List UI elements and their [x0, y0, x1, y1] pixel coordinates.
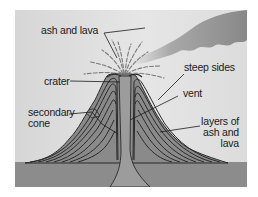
label-layers-line3: lava: [221, 138, 239, 149]
label-crater: crater: [44, 76, 70, 87]
label-ash-and-lava: ash and lava: [41, 25, 98, 36]
volcano-diagram: [0, 0, 258, 197]
label-steep-sides: steep sides: [184, 62, 235, 73]
label-secondary-cone-line2: cone: [28, 118, 50, 129]
label-vent: vent: [183, 88, 202, 99]
